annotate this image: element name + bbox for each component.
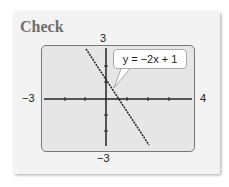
y-max-label: 3 (100, 32, 106, 44)
x-min-label: −3 (22, 92, 35, 104)
x-max-label: 4 (200, 92, 206, 104)
equation-label: y = −2x + 1 (123, 53, 178, 65)
equation-callout: y = −2x + 1 (113, 49, 187, 69)
y-min-label: −3 (97, 152, 110, 164)
